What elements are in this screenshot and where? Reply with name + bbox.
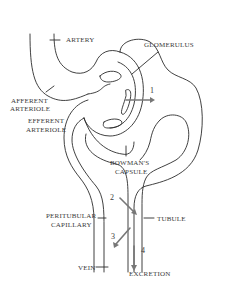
label-afferent-line2: ARTERIOLE (10, 105, 50, 113)
glomerulus-loop-1 (100, 71, 121, 82)
efferent-inner-wall (64, 100, 94, 272)
label-tubule: TUBULE (157, 215, 186, 223)
process-number-3: 3 (111, 232, 115, 241)
afferent-tick (46, 86, 54, 92)
label-afferent-line1: AFFERENT (11, 97, 48, 105)
label-peritubular-line2: CAPILLARY (51, 221, 92, 229)
bowmans-capsule-arc-outer (84, 52, 143, 136)
label-vein: VEIN (78, 264, 96, 272)
process-number-2: 2 (110, 193, 114, 202)
label-excretion: EXCRETION (129, 270, 170, 278)
arrow-2-reabsorption (120, 198, 134, 212)
label-efferent-line2: ARTERIOLE (26, 126, 66, 134)
label-efferent-line1: EFFERENT (28, 117, 64, 125)
arrowhead-1 (150, 97, 155, 103)
nephron-diagram: ARTERY GLOMERULUS AFFERENT ARTERIOLE EFF… (0, 0, 229, 284)
efferent-outer-wall (72, 118, 104, 272)
label-bowmans-line2: CAPSULE (115, 168, 148, 176)
glomerulus-loop-2 (121, 89, 130, 114)
tubule-inner-wall (142, 115, 189, 272)
label-glomerulus: GLOMERULUS (144, 41, 194, 49)
label-bowmans-line1: BOWMAN'S (110, 159, 149, 167)
nephron-drawing (0, 0, 229, 284)
bowmans-capsule-arc-inner (110, 62, 135, 128)
tubule-right-wall (140, 120, 160, 160)
capsule-outer-wall (88, 84, 110, 94)
label-artery: ARTERY (66, 36, 94, 44)
process-number-4: 4 (141, 246, 145, 255)
label-peritubular-line1: PERITUBULAR (46, 212, 96, 220)
glomerulus-loop-3 (103, 119, 122, 128)
process-number-1: 1 (150, 86, 154, 95)
